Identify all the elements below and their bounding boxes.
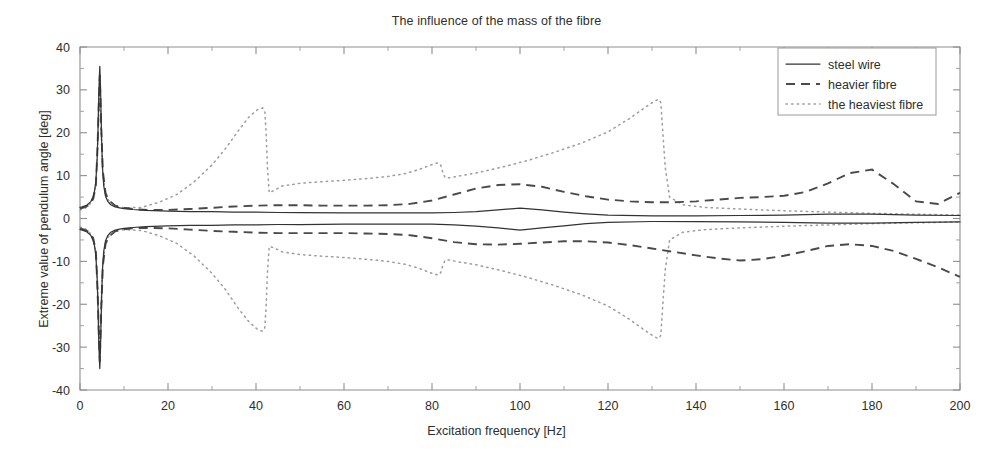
y-tick-label: -40: [52, 384, 70, 398]
y-tick-label: -10: [52, 255, 70, 269]
series-line-heavier-fibre-lower: [80, 228, 960, 362]
x-tick-label: 100: [510, 399, 531, 413]
chart-figure: The influence of the mass of the fibre E…: [0, 0, 993, 453]
x-tick-label: 160: [774, 399, 795, 413]
y-tick-label: 20: [56, 126, 70, 140]
legend[interactable]: steel wireheavier fibrethe heaviest fibr…: [778, 48, 936, 115]
x-tick-label: 0: [77, 399, 84, 413]
x-tick-label: 200: [950, 399, 971, 413]
legend-label: the heaviest fibre: [828, 98, 923, 112]
x-tick-label: 20: [161, 399, 175, 413]
x-tick-label: 40: [249, 399, 263, 413]
x-tick-label: 80: [425, 399, 439, 413]
legend-label: steel wire: [828, 58, 881, 72]
y-tick-label: 30: [56, 83, 70, 97]
x-tick-label: 180: [862, 399, 883, 413]
y-tick-label: 10: [56, 169, 70, 183]
x-tick-label: 120: [598, 399, 619, 413]
y-tick-label: -20: [52, 298, 70, 312]
x-axis-label: Excitation frequency [Hz]: [0, 424, 993, 438]
x-tick-label: 140: [686, 399, 707, 413]
plot-area: 020406080100120140160180200-40-30-20-100…: [0, 0, 993, 453]
y-tick-label: -30: [52, 341, 70, 355]
x-tick-label: 60: [337, 399, 351, 413]
series-line-the-heaviest-fibre-lower: [80, 222, 960, 351]
y-tick-label: 40: [56, 41, 70, 55]
legend-label: heavier fibre: [828, 78, 897, 92]
y-tick-label: 0: [63, 212, 70, 226]
